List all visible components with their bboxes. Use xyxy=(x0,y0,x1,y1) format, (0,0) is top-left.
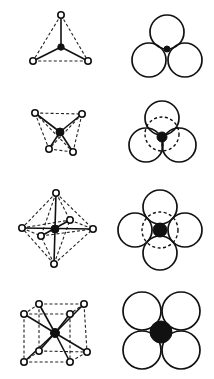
ligand-atom xyxy=(58,12,64,18)
cubic-sphere-packing xyxy=(123,292,200,369)
ligand-atom xyxy=(90,226,96,232)
ligand-atom xyxy=(85,58,91,64)
ligand-atom xyxy=(19,225,25,231)
metal-atom xyxy=(157,132,167,142)
ligand-atom xyxy=(53,190,59,196)
ligand-atom xyxy=(67,359,73,365)
tetrahedral-ball-and-stick xyxy=(30,12,91,64)
octahedral-ball-and-stick xyxy=(19,190,96,267)
four-coordinate-sphere-packing xyxy=(129,101,196,162)
ligand-atom xyxy=(38,233,44,239)
ligand-atom xyxy=(70,149,76,155)
metal-atom xyxy=(51,329,60,338)
metal-atom xyxy=(56,128,64,136)
ligand-atom xyxy=(67,217,73,223)
ligand-atom xyxy=(36,301,42,307)
metal-atom xyxy=(58,44,64,50)
ligand-atom xyxy=(32,110,38,116)
tetrahedral-sphere-packing xyxy=(132,15,202,77)
ligand-atom xyxy=(46,146,52,152)
ligand-atom xyxy=(67,311,73,317)
metal-atom xyxy=(153,223,167,237)
metal-atom xyxy=(51,225,59,233)
ligand-atom xyxy=(84,349,90,355)
cubic-ball-and-stick xyxy=(21,301,90,365)
ligand-atom xyxy=(36,348,42,354)
metal-atom xyxy=(150,321,172,343)
ligand-atom xyxy=(79,111,85,117)
ligand-atom xyxy=(21,311,27,317)
ligand-atom xyxy=(30,58,36,64)
metal-atom xyxy=(164,46,170,52)
octahedral-sphere-packing xyxy=(118,190,202,270)
ligand-atom xyxy=(21,359,27,365)
ligand-atom xyxy=(81,301,87,307)
coordination-geometry-diagram xyxy=(0,0,214,379)
ligand-atom xyxy=(51,261,57,267)
four-coordinate-ball-and-stick xyxy=(32,110,85,155)
